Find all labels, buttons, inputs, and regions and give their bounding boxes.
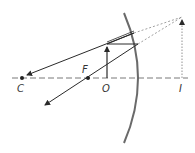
- label-f: F: [82, 64, 88, 75]
- label-c: C: [17, 83, 24, 94]
- ray-incident-double: [107, 31, 134, 42]
- point-c: [20, 76, 24, 80]
- label-o: O: [102, 83, 110, 94]
- label-i: I: [179, 83, 182, 94]
- ray-diagram: C F O I: [0, 0, 195, 153]
- ray-reflected-to-c: [27, 33, 134, 75]
- point-f: [86, 76, 90, 80]
- virtual-extension-2: [138, 17, 182, 44]
- virtual-extension-1: [134, 17, 182, 33]
- diagram-canvas: C F O I: [0, 0, 195, 153]
- ray-through-focus: [45, 44, 138, 105]
